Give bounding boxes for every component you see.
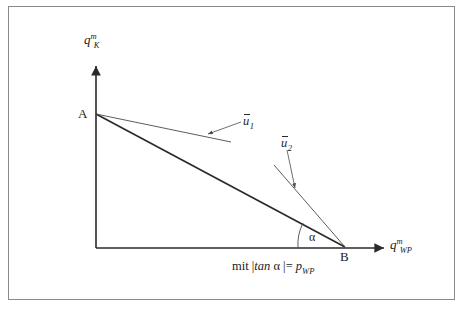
caption-prefix: mit bbox=[232, 259, 252, 273]
u2-subscript: 2 bbox=[288, 143, 292, 153]
u1-overbar-accent bbox=[244, 114, 251, 115]
u1-subscript: 1 bbox=[250, 121, 254, 131]
point-label-a: A bbox=[78, 107, 87, 120]
u2-overbar-accent bbox=[282, 136, 289, 137]
x-axis-label-subscript: WP bbox=[400, 245, 412, 255]
caption-p-variable: pWP bbox=[296, 259, 315, 273]
figure-vector-layer bbox=[0, 0, 462, 315]
curve-label-u1: u1 bbox=[243, 115, 254, 128]
u1-pointer-line bbox=[208, 122, 241, 134]
indifference-curve-u1 bbox=[96, 114, 231, 142]
y-axis-label: qmK bbox=[84, 33, 99, 46]
u1-base-with-bar: u bbox=[243, 115, 249, 128]
u2-base: u bbox=[281, 136, 287, 150]
budget-line-ab bbox=[96, 114, 345, 247]
angle-label-alpha: α bbox=[309, 231, 315, 243]
u2-pointer-line bbox=[287, 150, 295, 188]
caption-equals: = bbox=[286, 259, 296, 273]
caption-tan: tan bbox=[254, 259, 273, 273]
x-axis-label: qmWP bbox=[390, 238, 412, 251]
caption-p-subscript: WP bbox=[302, 266, 314, 276]
point-label-b: B bbox=[340, 250, 349, 263]
u2-base-with-bar: u bbox=[281, 137, 287, 150]
u1-base: u bbox=[243, 114, 249, 128]
y-axis-label-subscript: K bbox=[94, 40, 100, 50]
angle-arc-alpha bbox=[298, 223, 303, 248]
curve-label-u2: u2 bbox=[281, 137, 292, 150]
figure-canvas: qmK qmWP A B u1 u2 α mit |tan α |= pWP bbox=[0, 0, 462, 315]
figure-caption: mit |tan α |= pWP bbox=[232, 260, 314, 273]
